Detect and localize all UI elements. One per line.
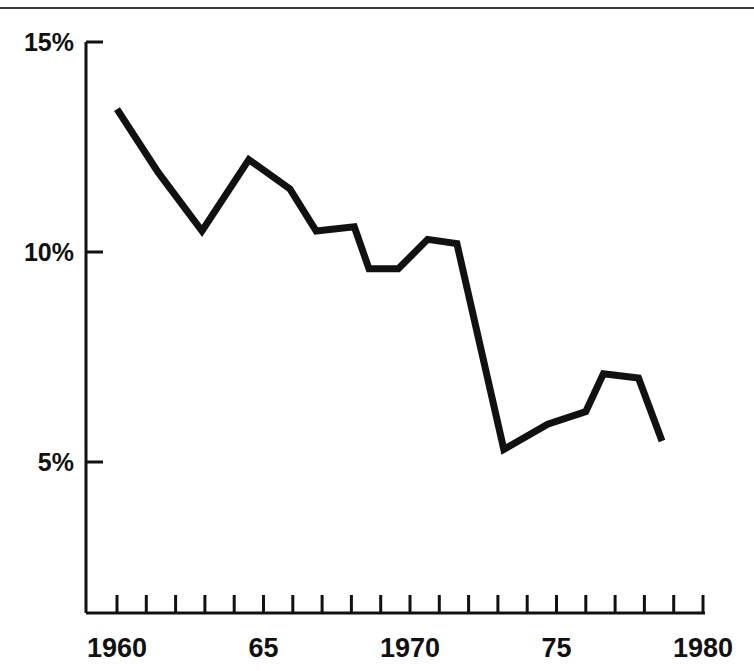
x-axis-tick-label: 1970 bbox=[380, 633, 440, 663]
x-axis-ticks bbox=[117, 595, 703, 613]
x-axis-tick-label: 1980 bbox=[673, 633, 733, 663]
x-axis-tick-label: 65 bbox=[248, 633, 278, 663]
x-axis-tick-label: 75 bbox=[541, 633, 571, 663]
y-axis-tick-label: 15% bbox=[24, 28, 74, 56]
line-chart: 15%10%5% 1960651970751980 bbox=[0, 0, 754, 671]
page-canvas: 15%10%5% 1960651970751980 bbox=[0, 0, 754, 671]
x-axis-tick-label: 1960 bbox=[87, 633, 147, 663]
y-axis-tick-label: 10% bbox=[24, 238, 74, 266]
y-axis-tick-labels: 15%10%5% bbox=[24, 28, 74, 476]
y-axis-ticks bbox=[86, 42, 103, 462]
y-axis-tick-label: 5% bbox=[38, 448, 74, 476]
data-series-line bbox=[117, 109, 662, 449]
x-axis-tick-labels: 1960651970751980 bbox=[87, 633, 733, 663]
